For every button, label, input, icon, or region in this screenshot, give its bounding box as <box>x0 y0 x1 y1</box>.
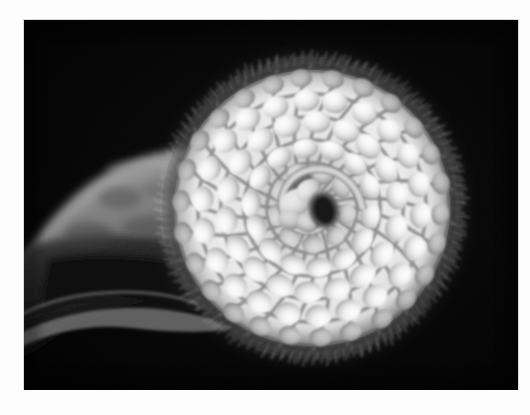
page-root <box>0 0 530 415</box>
photograph-canvas <box>24 20 518 390</box>
film-grain <box>24 20 518 390</box>
caption-margin <box>0 390 530 415</box>
photograph-plate <box>24 20 518 390</box>
